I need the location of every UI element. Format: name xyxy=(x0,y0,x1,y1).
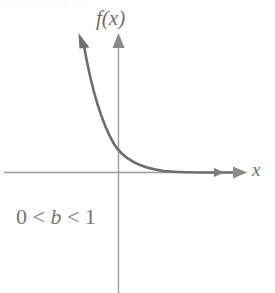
figure-canvas xyxy=(0,0,275,293)
base-condition-zero: 0 xyxy=(16,204,27,229)
exponential-decay-figure: — — — — — f(x) x 0 < b < 1 xyxy=(0,0,275,293)
base-condition-one: 1 xyxy=(85,204,96,229)
base-condition-first-operator: < xyxy=(33,204,45,229)
y-axis-arrow-icon xyxy=(113,33,125,48)
base-condition-annotation: 0 < b < 1 xyxy=(16,206,96,228)
base-condition-variable: b xyxy=(50,204,61,229)
curve-arrow-icon xyxy=(79,33,90,49)
x-axis-arrow-icon xyxy=(233,167,247,179)
x-axis-label: x xyxy=(252,160,260,179)
y-axis-label: f(x) xyxy=(96,8,125,29)
base-condition-second-operator: < xyxy=(67,204,79,229)
curve-end-arrow-icon xyxy=(214,168,224,177)
exponential-decay-curve xyxy=(84,46,232,173)
